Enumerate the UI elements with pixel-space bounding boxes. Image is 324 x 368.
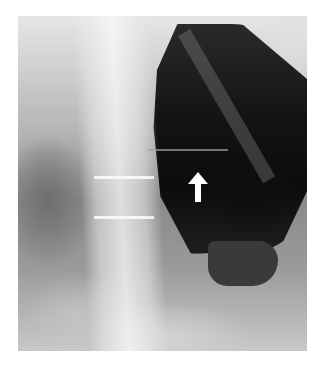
radiograph <box>18 16 307 351</box>
vertebral-endplate <box>94 176 154 179</box>
lower-bowel-loop <box>208 241 278 286</box>
lumbar-spine <box>71 16 169 351</box>
arrow-up-icon <box>188 172 208 202</box>
vertebral-endplate <box>94 216 154 219</box>
gas-filled-bowel <box>140 24 307 254</box>
air-fluid-level <box>148 149 228 151</box>
